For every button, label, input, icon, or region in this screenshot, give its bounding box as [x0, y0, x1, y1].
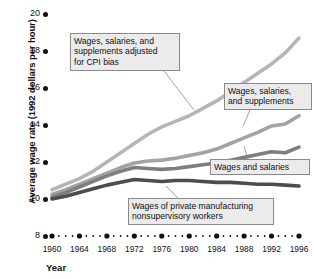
wage-rate-line-chart: Average wage rate (1992 dollars per hour…: [0, 0, 314, 279]
x-axis-dot-1962: [65, 235, 67, 237]
x-axis-dot-1996: [296, 233, 301, 238]
x-axis-dot-1971: [127, 235, 129, 237]
leader-line-callout-manufacturing-nonsupervisory: [166, 186, 178, 198]
x-axis-dot-1990: [257, 235, 259, 237]
x-axis-dot-1987: [236, 235, 238, 237]
x-axis-dot-1977: [168, 235, 170, 237]
x-axis-dot-1995: [291, 235, 293, 237]
x-axis-dot-1966: [92, 235, 94, 237]
x-axis-dot-1989: [250, 235, 252, 237]
callout-wages-salaries-supplements: Wages, salaries, and supplements: [224, 83, 312, 110]
x-axis-dot-1965: [85, 235, 87, 237]
x-axis-dotted-line: [49, 233, 301, 238]
x-axis-dot-1993: [278, 235, 280, 237]
x-axis-dot-1994: [284, 235, 286, 237]
x-axis-dot-1968: [104, 233, 109, 238]
leader-line-callout-wages-salaries-supplements: [243, 110, 250, 126]
x-axis-dot-1991: [264, 235, 266, 237]
x-axis-dot-1963: [72, 235, 74, 237]
x-axis-dot-1982: [202, 235, 204, 237]
callout-cpi-adjusted: Wages, salaries, and supplements adjuste…: [70, 33, 180, 71]
x-axis-dot-1992: [269, 233, 274, 238]
x-axis-dot-1964: [77, 233, 82, 238]
x-axis-dot-1979: [181, 235, 183, 237]
x-axis-dot-1970: [120, 235, 122, 237]
x-axis-dot-1978: [175, 235, 177, 237]
x-axis-dot-1983: [209, 235, 211, 237]
callout-manufacturing-nonsupervisory: Wages of private manufacturing nonsuperv…: [128, 198, 274, 225]
callout-wages-and-salaries: Wages and salaries: [210, 159, 310, 175]
x-axis-dot-1988: [242, 233, 247, 238]
x-axis-dot-1973: [140, 235, 142, 237]
x-axis-dot-1985: [223, 235, 225, 237]
x-axis-dot-1986: [229, 235, 231, 237]
x-axis-dot-1960: [49, 233, 54, 238]
x-axis-dot-1969: [113, 235, 115, 237]
x-axis-dot-1967: [99, 235, 101, 237]
x-axis-dot-1976: [159, 233, 164, 238]
x-axis-dot-1981: [195, 235, 197, 237]
x-axis-dot-1974: [147, 235, 149, 237]
x-axis-dot-1975: [154, 235, 156, 237]
x-axis-dot-1984: [214, 233, 219, 238]
x-axis-dot-1972: [132, 233, 137, 238]
x-axis-dot-1980: [187, 233, 192, 238]
leader-line-callout-cpi-adjusted: [164, 71, 194, 110]
x-axis-dot-1961: [58, 235, 60, 237]
